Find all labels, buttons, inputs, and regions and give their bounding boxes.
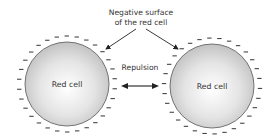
red-cell-right: Red cell <box>162 38 262 134</box>
annotation-line-1: Negative surface <box>109 8 174 17</box>
repulsion-label: Repulsion <box>122 63 159 72</box>
cell-label-right: Red cell <box>197 82 228 91</box>
red-cell-left: Red cell <box>17 36 117 132</box>
annotation-line-2: of the red cell <box>115 18 168 27</box>
red-cell-repulsion-diagram: Negative surface of the red cell Red cel… <box>0 0 279 140</box>
pointer-arrow-right <box>146 29 178 49</box>
pointer-arrow-left <box>106 29 136 49</box>
double-arrow-icon <box>121 83 159 89</box>
cell-label-left: Red cell <box>52 80 83 89</box>
